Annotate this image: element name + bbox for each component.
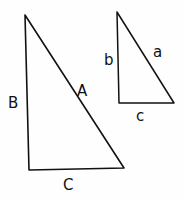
label-A: A [77, 82, 88, 100]
diagram-canvas: B A C b a c [0, 0, 185, 201]
label-c: c [136, 107, 144, 125]
label-b: b [104, 51, 114, 69]
label-C: C [63, 176, 73, 194]
large-triangle [25, 15, 124, 170]
similar-triangles-diagram: B A C b a c [0, 0, 185, 201]
small-triangle [117, 12, 174, 103]
label-B: B [8, 94, 18, 112]
label-a: a [153, 43, 162, 61]
